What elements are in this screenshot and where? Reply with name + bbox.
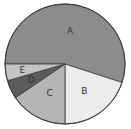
slice-label-a: A <box>67 26 74 36</box>
slice-label-e: E <box>19 65 25 75</box>
slice-label-d: D <box>28 75 35 85</box>
pie-slices <box>5 4 125 124</box>
slice-label-c: C <box>46 88 52 98</box>
pie-chart: ABCDE <box>0 0 131 129</box>
slice-label-b: B <box>81 86 87 96</box>
